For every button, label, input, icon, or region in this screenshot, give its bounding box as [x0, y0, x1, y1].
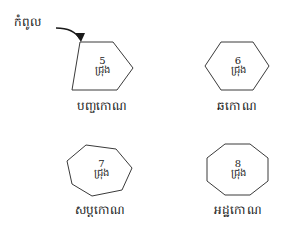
diagram-canvas: កំពូល 5 ជ្រុង បញ្ចកោណ 6 ជ្រុង ឆកោណ 7 [0, 0, 300, 230]
hexagon-shape[interactable] [203, 40, 273, 94]
figure-octagon[interactable]: 8 ជ្រុង [205, 143, 271, 198]
pentagon-outline[interactable] [72, 42, 133, 90]
figure-hexagon[interactable]: 6 ជ្រុង [203, 40, 273, 94]
heptagon-shape[interactable] [64, 144, 139, 200]
hexagon-name-label: ឆកោណ [167, 98, 300, 116]
hexagon-outline[interactable] [205, 42, 269, 90]
octagon-name-label: អដ្ឋកោណ [168, 202, 300, 220]
vertex-annotation-label: កំពូល [14, 14, 41, 32]
octagon-outline[interactable] [207, 144, 268, 195]
pentagon-name-label: បញ្ចកោណ [32, 98, 172, 116]
figure-heptagon[interactable]: 7 ជ្រុង [64, 144, 139, 200]
pentagon-shape[interactable] [65, 38, 140, 94]
figure-pentagon[interactable]: 5 ជ្រុង [65, 38, 140, 94]
heptagon-name-label: សប្តកោណ [30, 202, 170, 220]
heptagon-outline[interactable] [67, 145, 132, 196]
octagon-shape[interactable] [205, 143, 271, 198]
